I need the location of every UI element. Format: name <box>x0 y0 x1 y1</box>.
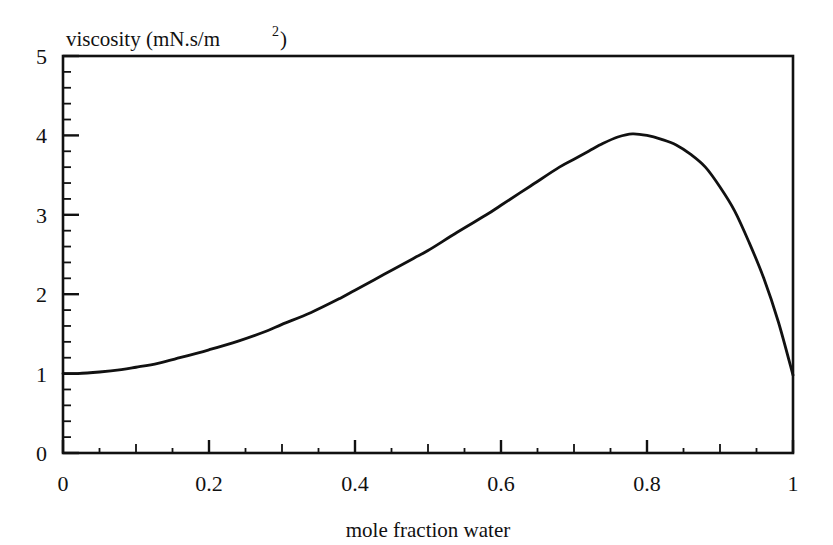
x-tick-label: 1 <box>788 471 799 496</box>
y-axis-title-superscript: 2 <box>272 24 279 39</box>
y-axis-title-main: viscosity (mN.s/m <box>66 27 220 51</box>
y-axis-title-tail: ) <box>280 27 287 51</box>
chart-background <box>0 0 833 545</box>
y-tick-label: 5 <box>36 44 47 69</box>
x-tick-label: 0.6 <box>487 471 515 496</box>
x-tick-label: 0 <box>58 471 69 496</box>
y-tick-label: 4 <box>36 123 47 148</box>
y-tick-label: 0 <box>36 441 47 466</box>
x-tick-label: 0.2 <box>195 471 223 496</box>
y-tick-label: 3 <box>36 203 47 228</box>
chart-figure: 00.20.40.60.81 012345 viscosity (mN.s/m … <box>0 0 833 545</box>
x-axis-title: mole fraction water <box>346 518 510 542</box>
viscosity-line-chart: 00.20.40.60.81 012345 viscosity (mN.s/m … <box>0 0 833 545</box>
y-tick-label: 2 <box>36 282 47 307</box>
x-tick-label: 0.4 <box>341 471 369 496</box>
x-tick-label: 0.8 <box>633 471 661 496</box>
y-tick-label: 1 <box>36 362 47 387</box>
